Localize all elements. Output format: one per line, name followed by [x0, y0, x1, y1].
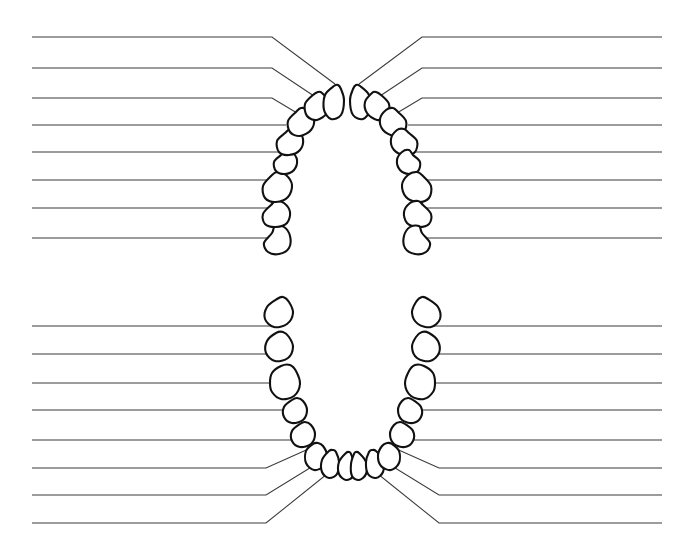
tooth-outline[interactable]	[378, 443, 400, 470]
dental-arch-worksheet	[0, 0, 694, 558]
dental-diagram-canvas	[0, 0, 694, 558]
tooth-outline[interactable]	[405, 365, 435, 400]
tooth-outline[interactable]	[270, 365, 300, 400]
